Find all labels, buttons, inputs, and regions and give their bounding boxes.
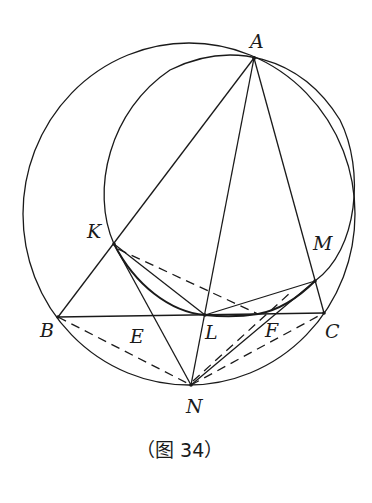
point-B — [56, 315, 60, 319]
label-C: C — [325, 320, 340, 342]
dashed-KX — [118, 249, 258, 314]
label-F: F — [264, 319, 279, 341]
label-N: N — [185, 395, 204, 417]
segment-AB — [58, 58, 254, 317]
arc-K-L-M — [114, 244, 315, 316]
point-K — [112, 242, 116, 246]
point-C — [322, 311, 326, 315]
point-L — [203, 313, 207, 317]
label-B: B — [39, 319, 54, 341]
segment-KL — [114, 244, 205, 315]
label-K: K — [86, 220, 103, 242]
dashed-BN — [58, 317, 191, 385]
point-A — [252, 56, 256, 60]
label-A: A — [248, 30, 264, 52]
segment-AN — [191, 58, 254, 385]
segment-AC — [254, 58, 324, 313]
label-E: E — [129, 325, 144, 347]
label-M: M — [312, 232, 333, 254]
circumcircle — [23, 43, 355, 385]
segment-BC — [58, 313, 324, 317]
point-N — [189, 383, 193, 387]
point-M — [313, 279, 317, 283]
geometry-figure: A B C K M L E F N （图 34） — [0, 0, 372, 503]
label-L: L — [204, 321, 218, 343]
segment-LM — [205, 281, 315, 315]
figure-caption: （图 34） — [136, 439, 223, 461]
